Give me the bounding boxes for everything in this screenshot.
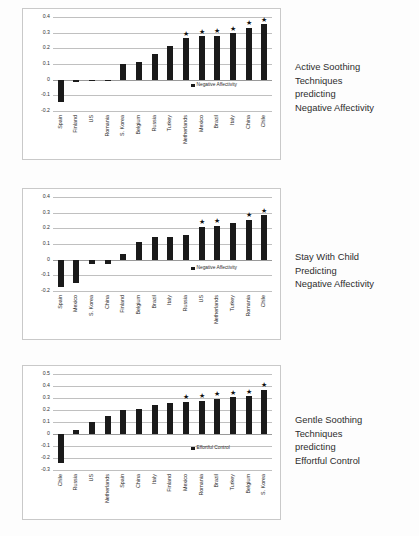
bar [183,235,189,259]
legend-label: Negative Affectivity [197,266,237,271]
caption-line: Effortful Control [295,454,419,468]
bar-slot [116,17,132,111]
x-label-slot: Finland [69,113,85,157]
x-label-slot: Chile [256,113,272,157]
bar [120,64,126,80]
x-label-slot: Romania [241,293,257,337]
bar-slot [69,197,85,291]
x-axis-tick-label: China [136,474,141,488]
bar-slot: ★ [194,197,210,291]
gridline: -0.3 [53,470,272,471]
x-axis-labels: SpainFinlandUSRomaniaS. KoreaBelgiumRuss… [53,113,272,157]
caption-line: Active Soothing [295,60,419,74]
x-axis-tick-label: Russia [152,115,157,131]
caption-line: Techniques [295,74,419,88]
figure-gentle-soothing: 0.50.40.30.20.10-0.1-0.2-0.3★★★★★★ Chile… [0,365,419,533]
bar [230,397,236,434]
y-axis-tick-label: 0.4 [43,14,50,19]
y-axis-tick-label: 0 [47,77,50,82]
x-label-slot: Romania [100,113,116,157]
bar-slot [131,374,147,470]
x-label-slot: Netherlands [209,293,225,337]
x-axis-tick-label: China [246,115,251,129]
legend-swatch [191,84,195,88]
bar-slot: ★ [225,17,241,111]
x-axis-tick-label: Russia [183,295,188,311]
x-axis-tick-label: Chile [261,295,266,307]
x-label-slot: Turkey [225,472,241,516]
bar [73,430,79,434]
gridline: -0.2 [53,111,272,112]
bar [167,237,173,260]
x-label-slot: Brazil [209,113,225,157]
significance-star-icon: ★ [246,19,252,26]
bar [136,242,142,259]
bar [152,405,158,434]
y-axis-tick-label: 0.4 [43,383,50,388]
bar-slot: ★ [241,197,257,291]
x-axis-tick-label: Mexico [74,295,79,312]
x-axis-tick-label: Romania [246,295,251,317]
caption-line: Negative Affectivity [295,277,419,291]
bar [214,226,220,260]
y-axis-tick-label: 0.2 [43,407,50,412]
x-label-slot: Finland [162,472,178,516]
x-axis-tick-label: S. Korea [89,295,94,316]
figure-caption: Active SoothingTechniquespredictingNegat… [295,8,419,114]
chart-frame: 0.40.30.20.10-0.1-0.2★★★★ SpainMexicoS. … [22,188,281,340]
significance-star-icon: ★ [246,388,252,395]
bar [105,80,111,81]
y-axis-tick-label: 0.2 [43,226,50,231]
significance-star-icon: ★ [246,211,252,218]
bar [230,33,236,80]
x-label-slot: Italy [225,113,241,157]
bar [230,223,236,260]
x-axis-tick-label: US [89,115,94,123]
caption-line: Stay With Child [295,250,419,264]
x-axis-tick-label: Belgium [136,115,141,134]
y-axis-tick-label: 0.5 [43,371,50,376]
bar-slot: ★ [178,17,194,111]
x-axis-tick-label: Chile [58,474,63,486]
x-label-slot: Brazil [147,293,163,337]
x-label-slot: Netherlands [100,472,116,516]
x-axis-tick-label: US [199,295,204,303]
bar [89,422,95,434]
x-label-slot: China [241,113,257,157]
significance-star-icon: ★ [261,16,267,23]
y-axis-tick-label: -0.1 [41,273,50,278]
bar-slot [116,374,132,470]
chart-legend: Negative Affectivity [191,266,237,271]
bar [73,80,79,82]
y-axis-tick-label: -0.1 [41,443,50,448]
y-axis-tick-label: 0.2 [43,46,50,51]
bar [261,215,267,259]
x-label-slot: Finland [116,293,132,337]
bar [199,227,205,260]
y-axis-tick-label: -0.3 [41,467,50,472]
bar-slot [162,197,178,291]
bar [152,54,158,80]
chart-legend: Effortful Control [191,446,230,451]
bar-slot: ★ [256,17,272,111]
x-axis-tick-label: US [89,474,94,482]
x-label-slot: US [84,472,100,516]
x-label-slot: US [84,113,100,157]
x-label-slot: Belgium [131,293,147,337]
significance-star-icon: ★ [183,393,189,400]
y-axis-tick-label: -0.2 [41,108,50,113]
bar-slot [147,17,163,111]
bar-slot [53,374,69,470]
y-axis-tick-label: 0.3 [43,30,50,35]
x-label-slot: Mexico [69,293,85,337]
x-label-slot: Spain [53,113,69,157]
significance-star-icon: ★ [261,207,267,214]
legend-label: Negative Affectivity [197,83,237,88]
x-axis-labels: SpainMexicoS. KoreaChinaFinlandBelgiumBr… [53,293,272,337]
x-label-slot: China [131,472,147,516]
chart-frame: 0.40.30.20.10-0.1-0.2★★★★★★ SpainFinland… [22,8,281,160]
bar-slot [116,197,132,291]
x-axis-tick-label: China [105,295,110,309]
significance-star-icon: ★ [261,381,267,388]
bar [199,36,205,79]
